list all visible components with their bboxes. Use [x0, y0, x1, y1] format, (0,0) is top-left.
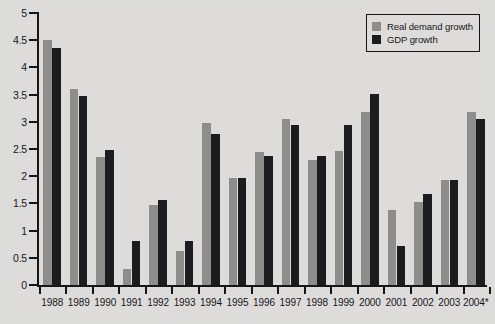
bar-group	[410, 12, 436, 285]
legend-swatch-icon-gdp-growth	[372, 35, 381, 44]
x-axis-tick-label: 2000	[359, 297, 381, 308]
x-axis-tick	[145, 287, 147, 294]
bar-2000-real-demand-growth	[361, 112, 370, 285]
bar-2004-gdp-growth	[476, 119, 485, 285]
bar-1993-gdp-growth	[185, 241, 194, 285]
bar-1994-gdp-growth	[211, 134, 220, 285]
legend-label-real-demand-growth: Real demand growth	[387, 21, 473, 32]
bar-group	[145, 12, 171, 285]
bar-1998-real-demand-growth	[308, 160, 317, 285]
bar-1993-real-demand-growth	[176, 251, 185, 285]
legend-swatch-icon-real-demand-growth	[372, 22, 381, 31]
bar-1994-real-demand-growth	[202, 123, 211, 285]
bar-1997-real-demand-growth	[282, 119, 291, 285]
x-axis-tick-label: 2002	[412, 297, 434, 308]
bar-1988-real-demand-growth	[43, 40, 52, 285]
bar-group	[330, 12, 356, 285]
bar-group	[436, 12, 462, 285]
x-axis-tick	[277, 287, 279, 294]
x-axis-tick-label: 1991	[121, 297, 143, 308]
x-axis-tick	[198, 287, 200, 294]
bar-1995-gdp-growth	[238, 178, 247, 285]
x-axis-tick-label: 1995	[227, 297, 249, 308]
x-axis-tick	[357, 287, 359, 294]
x-axis-tick-label: 2001	[385, 297, 407, 308]
bar-2001-real-demand-growth	[388, 210, 397, 285]
bar-group	[198, 12, 224, 285]
bar-2001-gdp-growth	[397, 246, 406, 285]
bar-group	[92, 12, 118, 285]
x-axis-tick-label: 1998	[306, 297, 328, 308]
bar-1991-real-demand-growth	[123, 269, 132, 285]
bar-2004-real-demand-growth	[467, 112, 476, 285]
bar-group	[224, 12, 250, 285]
bar-chart-figure: 00.511.522.533.544.55 198819891990199119…	[0, 0, 495, 324]
bar-1989-real-demand-growth	[70, 89, 79, 285]
bar-1996-gdp-growth	[264, 156, 273, 285]
legend-label-gdp-growth: GDP growth	[387, 34, 438, 45]
x-axis-tick-label: 2003	[438, 297, 460, 308]
bar-1992-real-demand-growth	[149, 205, 158, 286]
bar-2003-real-demand-growth	[441, 180, 450, 285]
x-axis-tick	[436, 287, 438, 294]
bar-2002-gdp-growth	[423, 194, 432, 285]
x-axis-tick	[224, 287, 226, 294]
bar-group	[118, 12, 144, 285]
x-axis-tick-label: 1992	[147, 297, 169, 308]
x-axis-tick-label: 1993	[174, 297, 196, 308]
x-axis-tick	[118, 287, 120, 294]
x-axis-tick	[383, 287, 385, 294]
legend-item-real-demand-growth: Real demand growth	[372, 21, 474, 32]
bar-1999-gdp-growth	[344, 125, 353, 285]
x-axis-tick	[92, 287, 94, 294]
chart-legend: Real demand growth GDP growth	[366, 14, 480, 52]
bar-2002-real-demand-growth	[414, 202, 423, 285]
bar-1988-gdp-growth	[52, 48, 61, 285]
x-axis-tick-label: 1994	[200, 297, 222, 308]
bar-group	[304, 12, 330, 285]
bar-2000-gdp-growth	[370, 94, 379, 285]
x-axis-tick	[39, 287, 41, 294]
bar-group	[39, 12, 65, 285]
x-axis-tick-label: 1990	[94, 297, 116, 308]
bar-1990-real-demand-growth	[96, 157, 105, 285]
bar-1998-gdp-growth	[317, 156, 326, 285]
bar-1990-gdp-growth	[105, 150, 114, 285]
bar-group	[277, 12, 303, 285]
x-axis-tick	[251, 287, 253, 294]
bar-1989-gdp-growth	[79, 96, 88, 285]
x-axis-tick-label: 1999	[332, 297, 354, 308]
x-axis-tick-label: 1997	[280, 297, 302, 308]
bar-1992-gdp-growth	[158, 200, 167, 285]
x-axis-tick-label: 2004*	[463, 297, 489, 308]
x-axis-tick	[489, 287, 491, 294]
x-axis-tick-label: 1996	[253, 297, 275, 308]
x-axis-line	[37, 285, 487, 287]
x-axis-tick	[410, 287, 412, 294]
bar-group	[65, 12, 91, 285]
x-axis-tick	[171, 287, 173, 294]
bar-1996-real-demand-growth	[255, 152, 264, 285]
bar-group	[383, 12, 409, 285]
x-axis-tick-label: 1988	[41, 297, 63, 308]
legend-item-gdp-growth: GDP growth	[372, 34, 474, 45]
bar-group	[251, 12, 277, 285]
bar-1995-real-demand-growth	[229, 178, 238, 285]
bar-1991-gdp-growth	[132, 241, 141, 285]
x-axis-tick	[463, 287, 465, 294]
x-axis-tick	[65, 287, 67, 294]
bar-group	[357, 12, 383, 285]
x-axis-tick-label: 1989	[68, 297, 90, 308]
bar-1999-real-demand-growth	[335, 151, 344, 285]
bar-group	[171, 12, 197, 285]
x-axis-tick	[304, 287, 306, 294]
bar-group	[463, 12, 489, 285]
bar-2003-gdp-growth	[450, 180, 459, 285]
bar-1997-gdp-growth	[291, 125, 300, 285]
x-axis-tick	[330, 287, 332, 294]
